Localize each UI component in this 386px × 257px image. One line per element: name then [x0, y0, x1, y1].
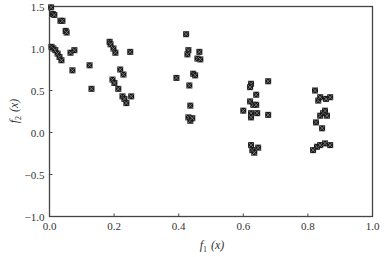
data-point — [112, 50, 118, 56]
data-point — [58, 57, 64, 63]
data-point — [186, 82, 192, 88]
data-point — [240, 108, 246, 114]
data-point — [51, 12, 57, 18]
data-point — [48, 4, 54, 10]
data-point — [322, 140, 328, 146]
data-point — [120, 72, 126, 78]
data-point — [255, 145, 261, 151]
data-point — [196, 49, 202, 55]
data-point — [88, 86, 94, 92]
data-point — [64, 30, 70, 36]
data-point — [317, 94, 323, 100]
data-point — [265, 112, 271, 118]
data-point — [327, 142, 333, 148]
y-tick-label: 0.5 — [31, 85, 45, 97]
data-point — [59, 18, 65, 24]
y-tick-label: −1.0 — [25, 211, 45, 223]
data-point — [87, 62, 93, 68]
data-point — [111, 80, 117, 86]
data-point — [324, 113, 330, 119]
data-point — [327, 94, 333, 100]
data-point — [173, 75, 179, 81]
x-tick-label: 1.0 — [366, 220, 380, 232]
x-axis-label: f1(x) — [200, 238, 225, 254]
data-point — [253, 102, 259, 108]
data-point — [310, 147, 316, 153]
data-point — [192, 72, 198, 78]
data-point — [248, 114, 254, 120]
data-point — [123, 100, 129, 106]
scatter-chart: 0.00.20.40.60.81.0 −1.0−0.50.00.51.01.5 … — [0, 0, 386, 257]
y-tick-label: 1.0 — [31, 43, 45, 55]
y-tick-label: −0.5 — [25, 169, 45, 181]
data-point — [128, 93, 134, 99]
x-tick-label: 0.2 — [107, 220, 121, 232]
data-point — [312, 88, 318, 94]
data-point — [247, 84, 253, 90]
y-axis-ticks: −1.0−0.50.00.51.01.5 — [25, 1, 53, 223]
data-points — [48, 4, 333, 155]
data-point — [313, 119, 319, 125]
data-point — [183, 31, 189, 37]
x-tick-label: 0.0 — [43, 220, 57, 232]
data-point — [253, 92, 259, 98]
data-point — [184, 51, 190, 57]
data-point — [197, 56, 203, 62]
data-point — [254, 110, 260, 116]
data-point — [127, 49, 133, 55]
x-tick-label: 0.8 — [301, 220, 315, 232]
data-point — [187, 103, 193, 109]
y-tick-label: 1.5 — [31, 1, 45, 13]
data-point — [115, 86, 121, 92]
data-point — [265, 78, 271, 84]
data-point — [319, 125, 325, 131]
x-tick-label: 0.6 — [236, 220, 250, 232]
y-tick-label: 0.0 — [31, 127, 45, 139]
x-tick-label: 0.4 — [172, 220, 186, 232]
data-point — [189, 115, 195, 121]
data-point — [69, 67, 75, 73]
y-axis-label: f2(x) — [7, 99, 23, 124]
data-point — [71, 47, 77, 53]
